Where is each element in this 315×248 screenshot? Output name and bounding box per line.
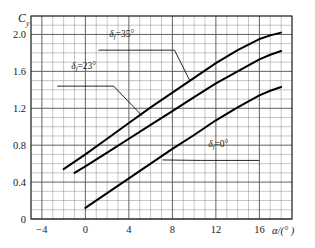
annotation-label-0: δf=35° <box>109 29 134 40</box>
x-tick-label-2: 4 <box>126 224 132 235</box>
x-tick-label-4: 12 <box>211 224 222 235</box>
x-axis-label: α/(° ) <box>272 225 295 237</box>
x-tick-label-0: −4 <box>36 224 48 235</box>
y-tick-label-2: 0.8 <box>13 140 26 151</box>
x-tick-label-3: 8 <box>170 224 175 235</box>
annotation-label-1: δf=23° <box>71 61 96 72</box>
x-tick-label-1: 0 <box>83 224 88 235</box>
y-axis-label-subscript: y <box>25 19 30 28</box>
lift-coefficient-chart: δf=35°δf=23°δf=0° −40481216 00.40.81.21.… <box>0 0 315 248</box>
x-tick-label-5: 16 <box>254 224 265 235</box>
annotation-label-2: δf=0° <box>208 139 228 150</box>
y-tick-label-5: 2.0 <box>13 29 26 40</box>
y-tick-label-3: 1.2 <box>13 103 26 114</box>
y-axis-label: C <box>18 12 26 24</box>
y-tick-label-4: 1.6 <box>13 66 26 77</box>
figure-container: δf=35°δf=23°δf=0° −40481216 00.40.81.21.… <box>0 0 315 248</box>
y-tick-label-1: 0.4 <box>13 177 27 188</box>
y-tick-label-0: 0 <box>21 214 26 225</box>
